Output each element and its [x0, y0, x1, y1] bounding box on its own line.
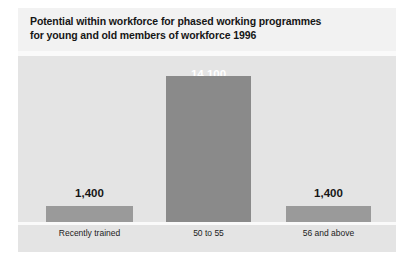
plot-area: 1,400 14,100 1,400 [18, 56, 396, 222]
bar-value-label-2: 1,400 [286, 187, 371, 199]
category-label-56-and-above: 56 and above [286, 228, 371, 238]
bar-50-to-55 [166, 76, 251, 222]
category-label-50-to-55: 50 to 55 [166, 228, 251, 238]
bar-value-label-0: 1,400 [46, 187, 133, 199]
category-label-recently-trained: Recently trained [46, 228, 133, 238]
bar-56-and-above [286, 206, 371, 222]
category-label-band: Recently trained 50 to 55 56 and above [18, 225, 396, 252]
bar-recently-trained [46, 206, 133, 222]
page-title-line-1: Potential within workforce for phased wo… [30, 15, 396, 29]
chart-figure: Potential within workforce for phased wo… [18, 8, 396, 252]
chart-title-band: Potential within workforce for phased wo… [18, 8, 396, 51]
page-title-line-2: for young and old members of workforce 1… [30, 29, 396, 43]
